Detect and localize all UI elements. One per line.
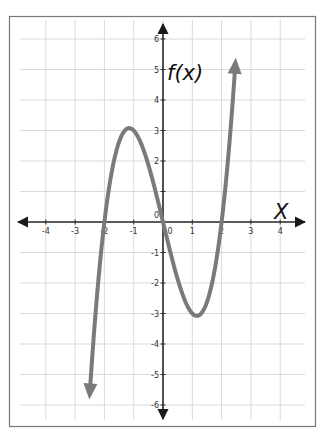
y-tick-label: -6 — [151, 401, 159, 410]
y-axis-label: f(x) — [167, 61, 203, 85]
y-tick-label: -4 — [151, 340, 159, 349]
y-tick-label: 5 — [154, 66, 159, 75]
y-tick-label: 4 — [154, 96, 159, 105]
y-tick-label: 3 — [154, 127, 159, 136]
x-tick-label: -4 — [42, 227, 50, 236]
y-tick-label: 2 — [154, 157, 159, 166]
y-tick-label: -5 — [151, 371, 159, 380]
y-tick-label: -3 — [151, 310, 159, 319]
x-tick-label: 0 — [167, 227, 172, 236]
function-graph: -4-3-2-101234 -6-5-4-3-2-1023456 f(x) X — [0, 0, 328, 435]
x-tick-label: 1 — [190, 227, 195, 236]
y-tick-label: -1 — [151, 249, 159, 258]
x-tick-label: 3 — [248, 227, 253, 236]
y-tick-label: -2 — [151, 279, 159, 288]
x-tick-label: -1 — [130, 227, 138, 236]
x-tick-label: 4 — [278, 227, 283, 236]
x-tick-label: -3 — [71, 227, 79, 236]
x-axis-label: X — [273, 200, 289, 224]
y-tick-label: 0 — [154, 211, 159, 220]
y-tick-label: 6 — [154, 35, 159, 44]
